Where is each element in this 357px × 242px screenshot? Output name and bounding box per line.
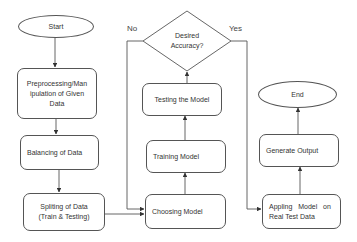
applying-model-node: Appling Model on Real Test Data	[262, 194, 341, 229]
start-node: Start	[18, 15, 94, 38]
flowchart-canvas: Start Preprocessing/Man ipulation of Giv…	[0, 0, 357, 242]
splitting-label-line2: (Train & Testing)	[39, 212, 90, 222]
decision-label: Desired Accuracy?	[157, 31, 217, 51]
generate-output-label: Generate Output	[266, 146, 318, 156]
preprocessing-label-line3: Data	[50, 99, 65, 109]
preprocessing-label-line2: ipulation of Given	[30, 89, 84, 99]
preprocessing-label-line1: Preprocessing/Man	[27, 79, 87, 89]
training-model-node: Training Model	[146, 140, 226, 173]
splitting-label-line1: Spliting of Data	[40, 202, 87, 212]
balancing-node: Balancing of Data	[20, 135, 99, 170]
training-model-label: Training Model	[153, 152, 199, 162]
decision-label-line2: Accuracy?	[157, 41, 217, 51]
decision-label-line1: Desired	[157, 31, 217, 41]
generate-output-node: Generate Output	[259, 134, 339, 167]
yes-edge-label: Yes	[229, 24, 242, 33]
testing-model-label: Testing the Model	[155, 95, 210, 105]
arrow-yes-to-applying	[231, 41, 261, 209]
preprocessing-node: Preprocessing/Man ipulation of Given Dat…	[17, 68, 97, 119]
testing-model-node: Testing the Model	[142, 83, 222, 116]
end-node: End	[258, 81, 337, 108]
no-edge-label: No	[127, 24, 137, 33]
applying-label-line2: Real Test Data	[269, 212, 315, 222]
choosing-model-label: Choosing Model	[152, 207, 203, 217]
arrow-no-loop-to-choosing	[127, 41, 144, 209]
splitting-node: Spliting of Data (Train & Testing)	[23, 193, 105, 231]
applying-label-line1: Appling Model on	[269, 202, 331, 212]
balancing-label: Balancing of Data	[27, 148, 82, 158]
end-label: End	[291, 91, 303, 98]
start-label: Start	[49, 23, 64, 30]
choosing-model-node: Choosing Model	[145, 194, 226, 229]
